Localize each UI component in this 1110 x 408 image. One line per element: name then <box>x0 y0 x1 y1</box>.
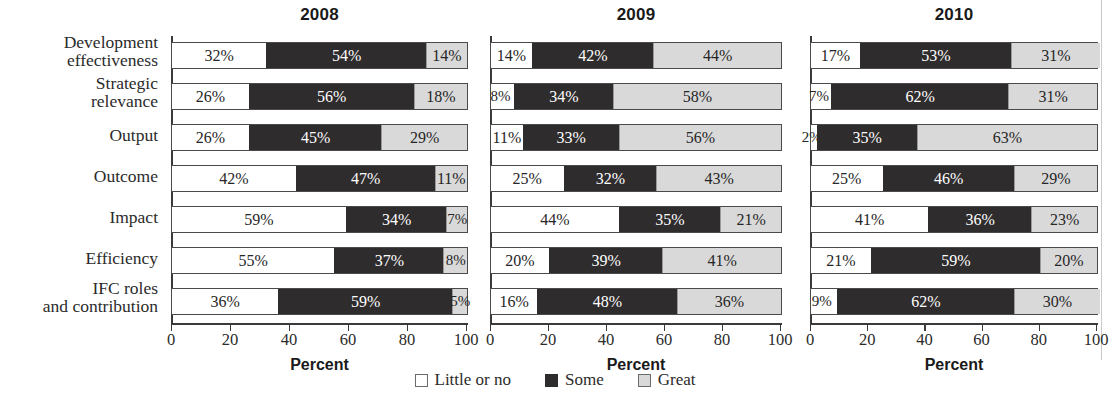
bar-value-label: 8% <box>491 88 511 105</box>
bar-value-label: 54% <box>332 47 361 65</box>
chart-legend: Little or no Some Great <box>0 370 1110 390</box>
bar-value-label: 41% <box>855 211 884 229</box>
category-label-column: DevelopmenteffectivenessStrategicrelevan… <box>0 30 166 315</box>
bar-segment-great: 20% <box>1040 248 1097 273</box>
bar-value-label: 32% <box>596 170 625 188</box>
bar-value-label: 62% <box>906 88 935 106</box>
bar-row: 25%32%43% <box>490 165 782 192</box>
category-label-5: Efficiency <box>85 249 158 267</box>
bar-segment-some: 35% <box>619 207 721 232</box>
panel-2008: 200832%54%14%26%56%18%26%45%29%42%47%11%… <box>171 0 468 408</box>
bar-segment-little: 44% <box>491 207 619 232</box>
bar-segment-great: 63% <box>917 125 1097 150</box>
bar-segment-great: 11% <box>435 166 467 191</box>
bar-segment-great: 18% <box>414 84 467 109</box>
bar-segment-some: 62% <box>831 84 1008 109</box>
bar-value-label: 55% <box>238 252 267 270</box>
x-axis-tick-label: 20 <box>859 330 876 350</box>
bar-value-label: 26% <box>196 129 225 147</box>
bar-segment-little: 32% <box>172 43 266 68</box>
bar-value-label: 16% <box>500 293 529 311</box>
bar-segment-little: 14% <box>491 43 532 68</box>
bar-value-label: 47% <box>351 170 380 188</box>
bar-segment-some: 54% <box>266 43 425 68</box>
bar-value-label: 18% <box>426 88 455 106</box>
bar-value-label: 48% <box>593 293 622 311</box>
bar-value-label: 58% <box>683 88 712 106</box>
bar-value-label: 7% <box>809 88 829 105</box>
bar-value-label: 9% <box>812 293 832 310</box>
bar-value-label: 11% <box>437 170 466 188</box>
bar-segment-little: 25% <box>811 166 883 191</box>
bar-row: 21%59%20% <box>810 247 1098 274</box>
x-axis-line <box>490 323 782 325</box>
bar-row: 42%47%11% <box>171 165 468 192</box>
x-axis-tick-label: 80 <box>1031 330 1048 350</box>
bar-value-label: 30% <box>1043 293 1072 311</box>
bar-row: 25%46%29% <box>810 165 1098 192</box>
bar-value-label: 31% <box>1038 88 1067 106</box>
bar-value-label: 43% <box>704 170 733 188</box>
bar-value-label: 34% <box>382 211 411 229</box>
bar-value-label: 42% <box>578 47 607 65</box>
bar-segment-some: 59% <box>871 248 1040 273</box>
x-axis-tick-label: 40 <box>281 330 298 350</box>
panel-title-2008: 2008 <box>171 5 468 25</box>
bar-segment-great: 7% <box>446 207 467 232</box>
bar-row: 32%54%14% <box>171 42 468 69</box>
bar-value-label: 25% <box>832 170 861 188</box>
panel-title-2010: 2010 <box>810 5 1098 25</box>
bar-value-label: 29% <box>1041 170 1070 188</box>
bar-segment-great: 23% <box>1031 207 1097 232</box>
bar-segment-great: 58% <box>613 84 781 109</box>
bar-value-label: 5% <box>450 293 470 310</box>
category-label-line1: Development <box>64 33 158 51</box>
legend-swatch-little-or-no <box>415 374 428 387</box>
bar-segment-some: 34% <box>514 84 613 109</box>
bar-segment-great: 44% <box>653 43 781 68</box>
bar-value-label: 37% <box>375 252 404 270</box>
bar-value-label: 46% <box>934 170 963 188</box>
bar-value-label: 36% <box>966 211 995 229</box>
bar-segment-some: 56% <box>249 84 414 109</box>
bar-row: 26%56%18% <box>171 83 468 110</box>
x-axis-tick-label: 60 <box>340 330 357 350</box>
bar-segment-little: 21% <box>811 248 871 273</box>
bar-segment-little: 11% <box>491 125 523 150</box>
category-label-0: Developmenteffectiveness <box>64 33 158 69</box>
page-rule <box>1101 0 1102 360</box>
category-label-6: IFC rolesand contribution <box>43 279 158 315</box>
panel-title-2009: 2009 <box>490 5 782 25</box>
bar-value-label: 35% <box>853 129 882 147</box>
bar-segment-some: 34% <box>346 207 446 232</box>
bar-value-label: 26% <box>196 88 225 106</box>
bar-segment-some: 62% <box>837 289 1014 314</box>
legend-swatch-great <box>638 374 651 387</box>
bar-segment-some: 53% <box>860 43 1012 68</box>
bar-segment-little: 26% <box>172 125 249 150</box>
bar-segment-great: 14% <box>426 43 467 68</box>
bar-value-label: 41% <box>707 252 736 270</box>
category-label-4: Impact <box>109 208 158 226</box>
bar-value-label: 44% <box>703 47 732 65</box>
x-axis-tick-label: 60 <box>656 330 673 350</box>
bar-value-label: 14% <box>432 47 461 65</box>
x-axis-tick-label: 60 <box>973 330 990 350</box>
bar-value-label: 63% <box>993 129 1022 147</box>
x-axis-tick-label: 40 <box>916 330 933 350</box>
bar-row: 2%35%63% <box>810 124 1098 151</box>
bar-segment-great: 5% <box>452 289 467 314</box>
bar-value-label: 59% <box>244 211 273 229</box>
bar-segment-some: 46% <box>883 166 1015 191</box>
bar-value-label: 53% <box>921 47 950 65</box>
legend-label-some: Some <box>565 370 604 390</box>
bar-row: 11%33%56% <box>490 124 782 151</box>
bar-row: 20%39%41% <box>490 247 782 274</box>
plot-area-2008: 32%54%14%26%56%18%26%45%29%42%47%11%59%3… <box>171 34 468 364</box>
bar-segment-little: 41% <box>811 207 928 232</box>
x-axis-tick-label: 80 <box>399 330 416 350</box>
bar-segment-little: 7% <box>811 84 831 109</box>
bar-value-label: 62% <box>911 293 940 311</box>
x-axis-tick-label: 100 <box>454 330 479 350</box>
bar-value-label: 56% <box>317 88 346 106</box>
